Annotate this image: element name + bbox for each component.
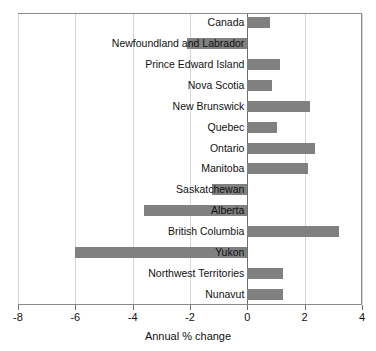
bar [247, 226, 339, 237]
bar [247, 59, 280, 70]
bar [247, 17, 270, 28]
bar-row: New Brunswick [18, 97, 362, 117]
bar-row: Newfoundland and Labrador [18, 34, 362, 54]
category-label: Newfoundland and Labrador [112, 35, 248, 52]
category-label: Northwest Territories [148, 265, 247, 282]
x-tick-label: -2 [170, 311, 210, 323]
bar-row: Ontario [18, 139, 362, 159]
gridline [362, 14, 363, 304]
category-label: Ontario [210, 140, 247, 157]
x-tick-mark [305, 305, 306, 310]
bar [247, 268, 283, 279]
x-tick-mark [133, 305, 134, 310]
bar [247, 101, 310, 112]
bar [247, 80, 271, 91]
x-tick-label: 4 [342, 311, 376, 323]
bar-row: Quebec [18, 118, 362, 138]
x-tick-mark [362, 305, 363, 310]
bar-row: Northwest Territories [18, 264, 362, 284]
bar [247, 143, 314, 154]
bar-rows: CanadaNewfoundland and LabradorPrince Ed… [18, 13, 362, 305]
x-tick-mark [18, 305, 19, 310]
bar-row: Alberta [18, 201, 362, 221]
bar-row: British Columbia [18, 222, 362, 242]
bar-row: Saskatchewan [18, 180, 362, 200]
x-axis-label: Annual % change [0, 330, 376, 342]
x-tick-label: 0 [227, 311, 267, 323]
category-label: Saskatchewan [176, 181, 247, 198]
category-label: Nunavut [205, 286, 247, 303]
bar-row: Yukon [18, 243, 362, 263]
bar-chart: CanadaNewfoundland and LabradorPrince Ed… [0, 0, 376, 351]
bar [247, 289, 283, 300]
category-label: Manitoba [201, 160, 247, 177]
category-label: Prince Edward Island [145, 56, 247, 73]
category-label: British Columbia [168, 223, 247, 240]
bar-row: Canada [18, 13, 362, 33]
bar-row: Manitoba [18, 159, 362, 179]
category-label: New Brunswick [173, 98, 248, 115]
bar-row: Prince Edward Island [18, 55, 362, 75]
x-tick-label: -4 [113, 311, 153, 323]
category-label: Nova Scotia [188, 77, 248, 94]
bar [247, 163, 307, 174]
x-tick-label: 2 [285, 311, 325, 323]
x-tick-mark [190, 305, 191, 310]
bar [247, 122, 277, 133]
category-label: Canada [208, 14, 248, 31]
category-label: Alberta [211, 202, 247, 219]
x-tick-mark [75, 305, 76, 310]
x-tick-label: -6 [55, 311, 95, 323]
x-tick-mark [247, 305, 248, 310]
bar-row: Nova Scotia [18, 76, 362, 96]
category-label: Yukon [215, 244, 247, 261]
category-label: Quebec [208, 119, 248, 136]
x-tick-label: -8 [0, 311, 38, 323]
bar-row: Nunavut [18, 285, 362, 305]
